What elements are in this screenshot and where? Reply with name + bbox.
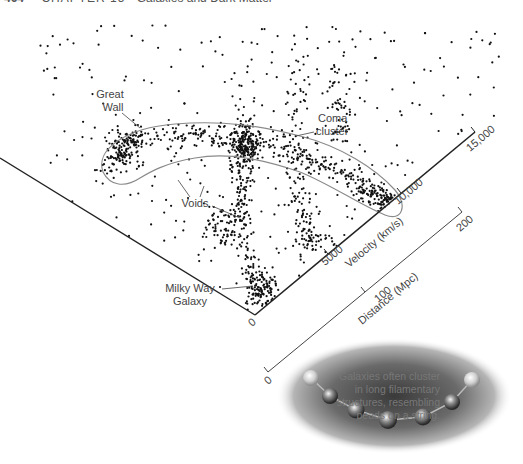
galaxy-dot xyxy=(397,164,399,166)
galaxy-dot xyxy=(259,133,261,135)
galaxy-dot xyxy=(231,95,233,97)
galaxy-dot xyxy=(151,185,153,187)
galaxy-dot xyxy=(210,260,212,262)
galaxy-dot xyxy=(247,257,249,259)
galaxy-dot xyxy=(226,221,228,223)
galaxy-dot xyxy=(117,155,119,157)
galaxy-dot xyxy=(361,184,363,186)
galaxy-dot xyxy=(160,139,162,141)
galaxy-dot xyxy=(493,86,495,88)
galaxy-dot xyxy=(250,233,252,235)
galaxy-dot xyxy=(157,47,159,49)
galaxy-dot xyxy=(342,55,344,57)
galaxy-dot xyxy=(373,192,375,194)
galaxy-dot xyxy=(125,151,127,153)
galaxy-dot xyxy=(358,199,360,201)
galaxy-dot xyxy=(320,164,322,166)
galaxy-dot xyxy=(336,181,338,183)
galaxy-dot xyxy=(379,186,381,188)
galaxy-dot xyxy=(298,201,300,203)
galaxy-dot xyxy=(475,31,477,33)
galaxy-dot xyxy=(162,128,164,130)
galaxy-dot xyxy=(235,131,237,133)
galaxy-dot xyxy=(261,281,263,283)
galaxy-dot xyxy=(306,232,308,234)
galaxy-dot xyxy=(280,146,282,148)
galaxy-dot xyxy=(213,234,215,236)
galaxy-dot xyxy=(264,267,266,269)
galaxy-dot xyxy=(249,160,251,162)
galaxy-dot xyxy=(82,63,84,65)
galaxy-dot xyxy=(268,144,270,146)
galaxy-dot xyxy=(386,196,388,198)
galaxy-dot xyxy=(254,302,256,304)
galaxy-dot xyxy=(211,137,213,139)
galaxy-dot xyxy=(217,129,219,131)
galaxy-dot xyxy=(315,142,317,144)
galaxy-dot xyxy=(222,144,224,146)
galaxy-dot xyxy=(124,153,126,155)
galaxy-dot xyxy=(242,114,244,116)
galaxy-dot xyxy=(357,176,359,178)
galaxy-dot xyxy=(279,160,281,162)
galaxy-dot xyxy=(265,280,267,282)
galaxy-dot xyxy=(174,137,176,139)
galaxy-dot xyxy=(126,142,128,144)
galaxy-dot xyxy=(233,128,235,130)
galaxy-dot xyxy=(300,259,302,261)
galaxy-dot xyxy=(313,170,315,172)
galaxy-dot xyxy=(265,286,267,288)
galaxy-dot xyxy=(225,228,227,230)
galaxy-dot xyxy=(481,39,483,41)
galaxy-dot xyxy=(239,138,241,140)
galaxy-dot xyxy=(150,223,152,225)
galaxy-dot xyxy=(249,185,251,187)
galaxy-dot xyxy=(248,287,250,289)
galaxy-dot xyxy=(306,38,308,40)
galaxy-dot xyxy=(165,199,167,201)
galaxy-dot xyxy=(170,66,172,68)
galaxy-dot xyxy=(135,146,137,148)
galaxy-dot xyxy=(239,178,241,180)
galaxy-dot xyxy=(244,133,246,135)
galaxy-dot xyxy=(167,148,169,150)
galaxy-dot xyxy=(294,200,296,202)
galaxy-dot xyxy=(255,135,257,137)
galaxy-dot xyxy=(364,150,366,152)
svg-text:Coma: Coma xyxy=(318,112,348,124)
galaxy-dot xyxy=(268,146,270,148)
galaxy-dot xyxy=(120,146,122,148)
galaxy-dot xyxy=(228,157,230,159)
galaxy-dot xyxy=(362,189,364,191)
galaxy-dot xyxy=(243,186,245,188)
galaxy-dot xyxy=(255,146,257,148)
galaxy-dot xyxy=(136,150,138,152)
galaxy-dot xyxy=(308,236,310,238)
galaxy-dot xyxy=(177,163,179,165)
galaxy-dot xyxy=(245,269,247,271)
galaxy-dot xyxy=(230,234,232,236)
galaxy-dot xyxy=(301,161,303,163)
galaxy-dot xyxy=(341,160,343,162)
galaxy-dot xyxy=(46,68,48,70)
galaxy-dot xyxy=(331,106,333,108)
galaxy-dot xyxy=(248,199,250,201)
svg-text:cluster: cluster xyxy=(316,125,349,137)
galaxy-dot xyxy=(182,133,184,135)
galaxy-dot xyxy=(340,173,342,175)
galaxy-dot xyxy=(234,221,236,223)
galaxy-dot xyxy=(193,133,195,135)
galaxy-dot xyxy=(253,249,255,251)
galaxy-dot xyxy=(359,30,361,32)
galaxy-dot xyxy=(227,230,229,232)
galaxy-dot xyxy=(386,194,388,196)
galaxy-dot xyxy=(301,154,303,156)
galaxy-dot xyxy=(135,135,137,137)
galaxy-dot xyxy=(348,175,350,177)
galaxy-dot xyxy=(214,224,216,226)
great-wall-outline xyxy=(102,123,402,217)
galaxy-dot xyxy=(291,116,293,118)
galaxy-dot xyxy=(424,32,426,34)
milky-way-label: Milky Way Galaxy xyxy=(165,282,253,307)
galaxy-dot xyxy=(195,129,197,131)
